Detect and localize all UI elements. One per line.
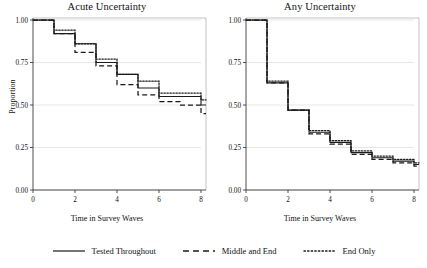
x-tick-label: 0 [31, 196, 35, 204]
x-tick-label: 0 [244, 196, 248, 204]
y-tick-label: 0.75 [15, 59, 28, 67]
x-tick-label: 4 [328, 196, 332, 204]
y-axis-label: Proportion [8, 62, 17, 132]
x-tick-label: 2 [73, 196, 77, 204]
y-tick-label: 0.00 [15, 187, 28, 195]
y-tick-label: 0.25 [15, 144, 28, 152]
legend: Tested ThroughoutMiddle and EndEnd Only [0, 238, 427, 264]
legend-swatch-dashed [182, 247, 216, 255]
figure: Acute Uncertainty 0.000.250.500.751.0002… [0, 0, 427, 268]
y-tick-label: 0.75 [228, 59, 241, 67]
x-axis-label-left: Time in Survey Waves [0, 214, 214, 223]
legend-item: Middle and End [182, 246, 277, 256]
series-line-dashed [246, 20, 419, 166]
series-line-dotted [246, 20, 419, 163]
plot-area-left: 0.000.250.500.751.0002468 [0, 0, 214, 232]
x-tick-label: 8 [199, 196, 203, 204]
series-line-solid [246, 20, 419, 165]
legend-label: Tested Throughout [92, 246, 156, 256]
y-tick-label: 1.00 [228, 17, 241, 25]
legend-item: End Only [303, 246, 376, 256]
y-tick-label: 0.25 [228, 144, 241, 152]
x-tick-label: 4 [115, 196, 119, 204]
panel-container: Acute Uncertainty 0.000.250.500.751.0002… [0, 0, 427, 232]
legend-label: Middle and End [222, 246, 277, 256]
panel-any-uncertainty: Any Uncertainty 0.000.250.500.751.000246… [213, 0, 427, 232]
y-tick-label: 0.50 [228, 102, 241, 110]
legend-item: Tested Throughout [52, 246, 156, 256]
y-tick-label: 0.50 [15, 102, 28, 110]
panel-acute-uncertainty: Acute Uncertainty 0.000.250.500.751.0002… [0, 0, 214, 232]
series-line-dotted [33, 20, 206, 100]
x-tick-label: 6 [157, 196, 161, 204]
plot-area-right: 0.000.250.500.751.0002468 [213, 0, 427, 232]
legend-swatch-dotted [303, 247, 337, 255]
y-tick-label: 0.00 [228, 187, 241, 195]
x-tick-label: 2 [286, 196, 290, 204]
legend-label: End Only [343, 246, 376, 256]
x-tick-label: 6 [370, 196, 374, 204]
x-tick-label: 8 [412, 196, 416, 204]
x-axis-label-right: Time in Survey Waves [213, 214, 427, 223]
legend-swatch-solid [52, 247, 86, 255]
y-tick-label: 1.00 [15, 17, 28, 25]
